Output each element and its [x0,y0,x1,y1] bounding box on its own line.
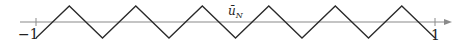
triangle-wave-diagram: −1 1 ūN [0,0,468,46]
curve-label-main: ū [228,4,236,18]
curve-label-subscript: N [235,11,244,20]
axis-label-minus-one: −1 [18,26,39,42]
x-axis-arrowhead [444,19,452,25]
curve-label: ūN [228,4,244,20]
axis-label-one: 1 [431,27,440,43]
